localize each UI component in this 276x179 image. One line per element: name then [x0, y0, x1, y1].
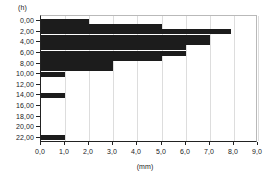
- y-axis-tick: [36, 105, 40, 106]
- y-axis-tick: [36, 63, 40, 64]
- bar-8: [41, 61, 113, 66]
- table-row: [41, 56, 258, 61]
- bar-22: [41, 135, 65, 140]
- x-axis-tick: [64, 142, 65, 145]
- y-axis-tick-label: 20,00: [16, 122, 34, 131]
- x-axis-tick-label: 6,0: [180, 147, 190, 156]
- y-axis-tick: [36, 137, 40, 138]
- y-axis-tick-label: 22,00: [16, 133, 34, 142]
- x-axis-tick: [161, 142, 162, 145]
- y-axis-tick-label: 0,00: [20, 16, 34, 25]
- table-row: [41, 72, 258, 77]
- x-axis-unit-text: (mm): [137, 162, 154, 171]
- y-axis-tick: [36, 94, 40, 95]
- y-axis-tick-label: 18,00: [16, 112, 34, 121]
- x-axis-tick-label: 9,0: [252, 147, 262, 156]
- y-axis-tick-label: 10,00: [16, 69, 34, 78]
- y-axis-tick-label: 2,00: [20, 27, 34, 36]
- plot-area: [40, 15, 257, 142]
- y-axis-tick: [36, 84, 40, 85]
- chart-figure: (h) 0,01,02,03,04,05,06,07,08,09,00,002,…: [0, 0, 276, 179]
- y-axis-tick: [36, 41, 40, 42]
- x-axis-tick-label: 1,0: [59, 147, 69, 156]
- bar-4: [41, 40, 210, 45]
- y-axis-unit-label: (h): [18, 3, 27, 12]
- x-axis-tick-label: 2,0: [83, 147, 93, 156]
- y-axis-tick-label: 12,00: [16, 80, 34, 89]
- y-axis-tick: [36, 31, 40, 32]
- y-axis-tick-label: 8,00: [20, 59, 34, 68]
- bar-10: [41, 72, 65, 77]
- x-axis-tick: [40, 142, 41, 145]
- table-row: [41, 93, 258, 98]
- y-axis-tick: [36, 73, 40, 74]
- table-row: [41, 35, 258, 40]
- y-axis-tick-label: 14,00: [16, 90, 34, 99]
- y-axis-tick: [36, 126, 40, 127]
- bar-9: [41, 66, 113, 71]
- x-axis-tick-label: 3,0: [107, 147, 117, 156]
- x-axis-tick-label: 7,0: [204, 147, 214, 156]
- gridline-vertical: [258, 16, 259, 141]
- bar-7: [41, 56, 162, 61]
- y-axis-tick-label: 4,00: [20, 37, 34, 46]
- x-axis-tick-label: 4,0: [131, 147, 141, 156]
- x-axis-tick: [136, 142, 137, 145]
- table-row: [41, 135, 258, 140]
- x-axis-tick: [257, 142, 258, 145]
- x-axis-tick: [112, 142, 113, 145]
- y-axis-tick: [36, 20, 40, 21]
- x-axis-tick-label: 8,0: [228, 147, 238, 156]
- bar-1: [41, 24, 162, 29]
- bar-2: [41, 29, 231, 34]
- bar-14: [41, 93, 65, 98]
- bar-0: [41, 19, 89, 24]
- bar-5: [41, 45, 186, 50]
- table-row: [41, 45, 258, 50]
- table-row: [41, 19, 258, 24]
- table-row: [41, 61, 258, 66]
- y-axis-tick-label: 16,00: [16, 101, 34, 110]
- x-axis-unit-label: (mm): [0, 162, 276, 171]
- y-axis-tick: [36, 52, 40, 53]
- y-axis-tick-label: 6,00: [20, 48, 34, 57]
- bar-6: [41, 51, 186, 56]
- x-axis-tick-label: 0,0: [35, 147, 45, 156]
- y-axis-tick: [36, 116, 40, 117]
- bar-series: [41, 16, 256, 141]
- bar-3: [41, 35, 210, 40]
- table-row: [41, 51, 258, 56]
- x-axis-tick: [233, 142, 234, 145]
- table-row: [41, 24, 258, 29]
- x-axis-tick: [209, 142, 210, 145]
- x-axis-tick-label: 5,0: [156, 147, 166, 156]
- table-row: [41, 29, 258, 34]
- x-axis-tick: [185, 142, 186, 145]
- table-row: [41, 66, 258, 71]
- x-axis-tick: [88, 142, 89, 145]
- table-row: [41, 40, 258, 45]
